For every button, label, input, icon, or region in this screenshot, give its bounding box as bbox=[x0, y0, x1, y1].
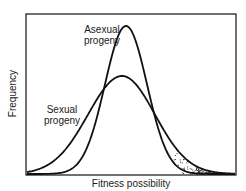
y-axis-label: Frequency bbox=[7, 64, 18, 124]
x-axis-label: Fitness possibility bbox=[26, 178, 236, 189]
sexual-label-line1: Sexual bbox=[43, 104, 81, 115]
asexual-label-line2: progeny bbox=[83, 35, 121, 46]
asexual-label-line1: Asexual bbox=[83, 24, 121, 35]
distribution-chart bbox=[0, 0, 246, 191]
sexual-label-line2: progeny bbox=[43, 115, 81, 126]
asexual-progeny-curve bbox=[27, 26, 235, 174]
asexual-progeny-label: Asexual progeny bbox=[83, 24, 121, 46]
plot-frame bbox=[26, 14, 236, 175]
sexual-progeny-label: Sexual progeny bbox=[43, 104, 81, 126]
